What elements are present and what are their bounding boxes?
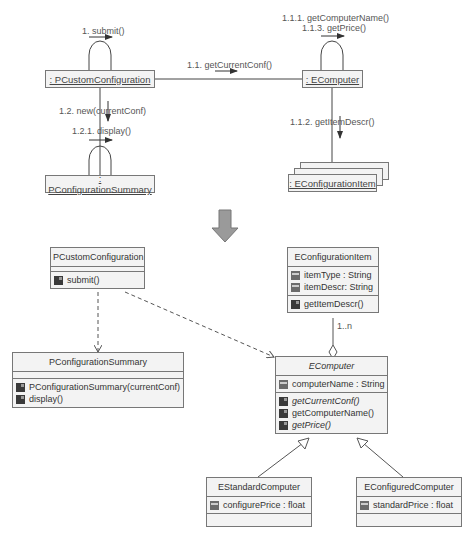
message-get-price: 1.1.3. getPrice() [302,23,366,33]
message-display: 1.2.1. display() [72,126,131,136]
class-estandard-computer[interactable]: EStandardComputer configurePrice : float [206,477,312,527]
operations-section [357,514,461,526]
object-pcustom-configuration[interactable]: : PCustomConfiguration [45,70,155,88]
class-name: EComputer [276,357,387,376]
attributes-section: computerName : String [276,376,387,393]
class-pcustom-configuration[interactable]: PCustomConfiguration submit() [50,247,145,289]
attributes-section: configurePrice : float [207,497,311,514]
message-get-current-conf: 1.1. getCurrentConf() [187,60,272,70]
class-name: EStandardComputer [207,478,311,497]
class-ecomputer[interactable]: EComputer computerName : String getCurre… [275,356,388,434]
attribute-icon [360,501,369,510]
message-submit: 1. submit() [82,26,125,36]
attribute-icon [291,271,300,280]
operations-section: submit() [51,272,144,288]
operation-row: getCurrentConf() [279,395,384,407]
operation-row: getItemDescr() [291,298,375,310]
class-pconfiguration-summary[interactable]: PConfigurationSummary PConfigurationSumm… [12,352,184,408]
operations-section: getItemDescr() [288,296,378,312]
attribute-icon [291,283,300,292]
operation-icon [54,276,63,285]
multiplicity-label: 1..n [337,321,352,331]
operation-row: display() [16,393,180,405]
operation-icon [16,395,25,404]
class-econfiguration-item[interactable]: EConfigurationItem itemType : String ite… [287,247,379,313]
attributes-section: standardPrice : float [357,497,461,514]
operations-section [207,514,311,526]
attributes-section: itemType : String itemDescr: String [288,267,378,296]
class-name: EConfigurationItem [288,248,378,267]
message-new-current-conf: 1.2. new(currentConf) [59,106,146,116]
operation-row: submit() [54,274,141,286]
attribute-row: itemType : String [291,269,375,281]
object-ecomputer[interactable]: : EComputer [302,70,363,88]
operation-row: PConfigurationSummary(currentConf) [16,381,180,393]
down-arrow-icon [211,209,239,243]
attribute-row: standardPrice : float [360,499,458,511]
message-get-computer-name: 1.1.1. getComputerName() [282,13,389,23]
attribute-row: itemDescr: String [291,281,375,293]
class-name: PConfigurationSummary [13,353,183,372]
operation-icon [279,421,288,430]
attribute-row: computerName : String [279,378,384,390]
object-econfiguration-item[interactable]: : EConfigurationItem [288,174,377,192]
operation-row: getPrice() [279,419,384,431]
class-econfigured-computer[interactable]: EConfiguredComputer standardPrice : floa… [356,477,462,527]
class-name: PCustomConfiguration [51,248,144,267]
operations-section: PConfigurationSummary(currentConf) displ… [13,379,183,407]
attribute-row: configurePrice : float [210,499,308,511]
operation-icon [279,409,288,418]
message-get-item-descr: 1.1.2. getItemDescr() [290,117,375,127]
attribute-icon [210,501,219,510]
operations-section: getCurrentConf() getComputerName() getPr… [276,393,387,433]
object-pconfiguration-summary[interactable]: : PConfigurationSummary [45,175,155,193]
operation-icon [16,383,25,392]
operation-row: getComputerName() [279,407,384,419]
attribute-icon [279,380,288,389]
operation-icon [291,300,300,309]
class-name: EConfiguredComputer [357,478,461,497]
operation-icon [279,397,288,406]
attributes-section [13,372,183,379]
